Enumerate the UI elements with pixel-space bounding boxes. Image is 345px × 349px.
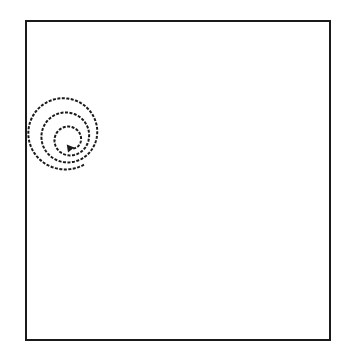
frame-border [26, 21, 330, 340]
diagram-canvas [0, 0, 345, 349]
spiral-arrow [28, 98, 97, 169]
